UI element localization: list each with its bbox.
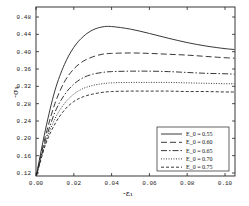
y-axis-title: -σ₁ <box>11 86 20 97</box>
y-tick-label: 0.36 <box>17 66 32 73</box>
x-tick-label: 0.04 <box>104 180 119 187</box>
x-tick-label: 0.06 <box>142 180 157 187</box>
x-tick-label: 0.08 <box>180 180 195 187</box>
line-chart: 0.000.020.040.060.080.10 0.120.160.200.2… <box>0 0 249 206</box>
legend: E_0 = 0.55E_0 = 0.60E_0 = 0.65E_0 = 0.70… <box>157 127 229 171</box>
legend-label: E_0 = 0.75 <box>186 164 213 170</box>
legend-label: E_0 = 0.60 <box>186 139 213 145</box>
y-tick-label: 0.44 <box>17 31 32 38</box>
y-tick-label: 0.24 <box>17 118 32 125</box>
y-tick-label: 0.16 <box>17 153 32 160</box>
y-tick-label: 0.12 <box>17 170 32 177</box>
y-tick-label: 0.20 <box>17 135 32 142</box>
y-tick-label: 0.48 <box>17 14 32 21</box>
x-tick-label: 0.02 <box>67 180 82 187</box>
x-axis-title: -ε₁ <box>123 189 133 198</box>
x-tick-label: 0.10 <box>218 180 233 187</box>
x-tick-label: 0.00 <box>29 180 44 187</box>
legend-label: E_0 = 0.55 <box>186 131 213 137</box>
legend-label: E_0 = 0.65 <box>186 148 213 154</box>
y-tick-label: 0.40 <box>17 49 32 56</box>
y-tick-label: 0.28 <box>17 101 32 108</box>
legend-label: E_0 = 0.70 <box>186 156 213 162</box>
